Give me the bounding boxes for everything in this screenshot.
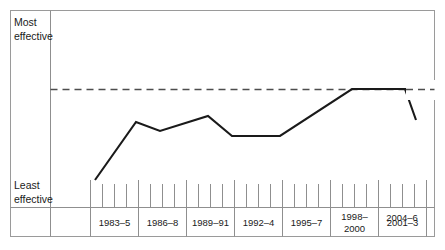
x-tick-label-1998-2000-line1: 1998– [341, 211, 368, 222]
y-axis-top-label-line1: Most [14, 16, 37, 28]
x-tick-label-1995-7: 1995–7 [291, 217, 323, 228]
y-axis-bottom-label-line1: Least [14, 179, 40, 191]
x-tick-label-1992-4: 1992–4 [243, 217, 275, 228]
x-tick-label-2004-6: 2004–6 [378, 212, 426, 223]
x-tick-label-1989-91: 1989–91 [192, 217, 229, 228]
x-tick-label-1998-2000-line2: 2000 [344, 223, 365, 234]
chart-figure: Most effective Least effective 1983–5 19… [0, 0, 445, 250]
y-axis-top-label-line2: effective [14, 30, 53, 42]
x-tick-label-1983-5: 1983–5 [99, 217, 131, 228]
y-axis-bottom-label-line2: effective [14, 193, 53, 205]
x-tick-label-1986-8: 1986–8 [147, 217, 179, 228]
